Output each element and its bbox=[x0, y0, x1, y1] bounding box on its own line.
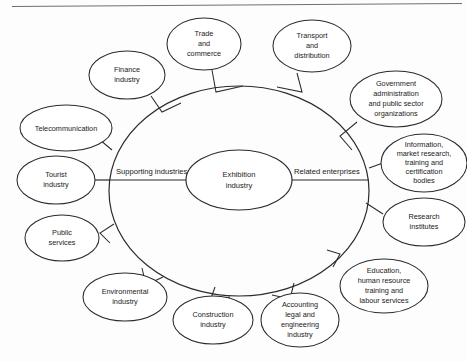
accounting-legal-engineering-label-line-1: Accounting bbox=[282, 300, 318, 309]
node-transport-and-distribution[interactable]: Transport and distribution bbox=[273, 20, 351, 72]
research-institutes-label-line-2: institutes bbox=[410, 222, 439, 231]
accounting-legal-engineering-label-line-3: engineering bbox=[281, 320, 319, 329]
trade-and-commerce-label-line-2: and bbox=[198, 39, 210, 48]
node-tourist-industry[interactable]: Tourist industry bbox=[17, 156, 95, 204]
finance-industry-label-line-1: Finance bbox=[114, 65, 140, 74]
connector-public-services bbox=[100, 224, 114, 243]
exhibition-industry-label-line-2: industry bbox=[226, 181, 253, 190]
node-finance-industry[interactable]: Finance industry bbox=[89, 51, 165, 99]
environmental-industry-label-line-2: industry bbox=[112, 297, 138, 306]
tourist-industry-label-line-2: industry bbox=[43, 180, 69, 189]
radial-diagram: Exhibition industry Supporting industrie… bbox=[0, 0, 467, 362]
environmental-industry-label-line-1: Environmental bbox=[102, 287, 149, 296]
axis-label-supporting-industries: Supporting industries bbox=[116, 167, 188, 176]
education-human-resource-label-line-1: Education, bbox=[367, 266, 401, 275]
exhibition-industry-ellipse bbox=[186, 150, 292, 210]
node-construction-industry[interactable]: Construction industry bbox=[173, 296, 253, 344]
diagram-canvas: Exhibition industry Supporting industrie… bbox=[0, 0, 467, 362]
finance-industry-label-line-2: industry bbox=[114, 75, 140, 84]
public-services-label-line-2: services bbox=[49, 238, 76, 247]
node-environmental-industry[interactable]: Environmental industry bbox=[83, 273, 167, 321]
transport-and-distribution-label-line-2: and bbox=[306, 41, 318, 50]
telecommunication-label-line-1: Telecommunication bbox=[35, 124, 97, 133]
government-administration-label-line-3: and public sector bbox=[368, 99, 424, 108]
connector-education-human-resource bbox=[327, 250, 340, 267]
information-market-research-label-line-3: training and bbox=[405, 158, 443, 167]
accounting-legal-engineering-label-line-2: legal and bbox=[285, 310, 315, 319]
trade-and-commerce-label-line-3: commerce bbox=[187, 49, 221, 58]
node-telecommunication[interactable]: Telecommunication bbox=[20, 105, 112, 151]
construction-industry-label-line-1: Construction bbox=[193, 310, 234, 319]
transport-and-distribution-label-line-3: distribution bbox=[294, 51, 329, 60]
government-administration-label-line-4: organizations bbox=[374, 109, 418, 118]
frame-top-rule bbox=[12, 4, 462, 7]
node-research-institutes[interactable]: Research institutes bbox=[383, 198, 465, 246]
education-human-resource-label-line-3: training and bbox=[365, 286, 403, 295]
information-market-research-label-line-4: certification bbox=[406, 167, 443, 176]
node-education-human-resource[interactable]: Education, human resource training and l… bbox=[340, 259, 428, 313]
government-administration-label-line-2: administration bbox=[373, 89, 418, 98]
connector-transport-and-distribution bbox=[277, 73, 302, 92]
node-government-administration[interactable]: Government administration and public sec… bbox=[350, 71, 442, 127]
exhibition-industry-label-line-1: Exhibition bbox=[223, 170, 256, 179]
node-trade-and-commerce[interactable]: Trade and commerce bbox=[167, 18, 241, 70]
government-administration-label-line-1: Government bbox=[376, 79, 416, 88]
information-market-research-label-line-2: market research, bbox=[397, 149, 452, 158]
information-market-research-label-line-1: Information, bbox=[405, 140, 444, 149]
tourist-industry-label-line-1: Tourist bbox=[45, 170, 67, 179]
node-public-services[interactable]: Public services bbox=[25, 215, 99, 261]
node-information-market-research[interactable]: Information, market research, training a… bbox=[381, 134, 467, 192]
axis-label-related-enterprises: Related enterprises bbox=[294, 167, 360, 176]
construction-industry-label-line-2: industry bbox=[200, 320, 226, 329]
connector-trade-and-commerce bbox=[212, 70, 243, 92]
education-human-resource-label-line-4: labour services bbox=[359, 296, 408, 305]
research-institutes-label-line-1: Research bbox=[408, 212, 439, 221]
connector-government-administration bbox=[340, 122, 357, 150]
node-exhibition-industry[interactable]: Exhibition industry bbox=[186, 150, 292, 210]
public-services-label-line-1: Public bbox=[52, 228, 72, 237]
transport-and-distribution-label-line-1: Transport bbox=[297, 31, 328, 40]
information-market-research-label-line-5: bodies bbox=[413, 176, 435, 185]
node-accounting-legal-engineering[interactable]: Accounting legal and engineering industr… bbox=[261, 293, 339, 347]
connector-research-institutes bbox=[366, 203, 383, 214]
accounting-legal-engineering-label-line-4: industry bbox=[287, 330, 313, 339]
trade-and-commerce-label-line-1: Trade bbox=[195, 29, 214, 38]
education-human-resource-label-line-2: human resource bbox=[358, 276, 411, 285]
